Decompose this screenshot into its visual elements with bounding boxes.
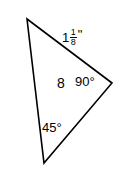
fraction-denominator: 8 — [70, 38, 77, 47]
fraction-one-eighth: 1 8 — [70, 28, 77, 48]
angle-label-90-degrees: 90° — [75, 75, 95, 88]
mixed-number-whole-part: 1 — [62, 31, 69, 44]
inch-mark-symbol: " — [78, 28, 83, 41]
angle-label-45-degrees: 45° — [42, 121, 62, 134]
triangle-figure: 1 1 8 " 8 90° 45° — [0, 0, 125, 179]
fraction-numerator: 1 — [70, 28, 77, 37]
side-length-label-mixed-number: 1 1 8 " — [62, 28, 82, 48]
side-length-label-8: 8 — [57, 76, 65, 90]
